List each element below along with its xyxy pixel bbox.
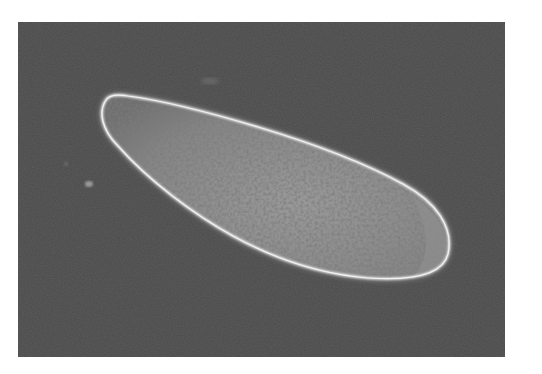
micrograph-photo: [18, 22, 505, 357]
micrograph-svg: [18, 22, 505, 357]
debris-particle: [64, 162, 68, 166]
debris-particle: [201, 78, 219, 84]
debris-particle: [85, 181, 93, 187]
